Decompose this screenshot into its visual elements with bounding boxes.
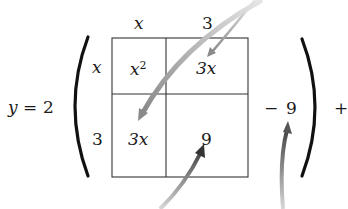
constant-term: 9 xyxy=(286,100,297,117)
row-header-3: 3 xyxy=(92,131,103,148)
arrow-to-constant xyxy=(282,121,292,209)
right-parenthesis xyxy=(302,39,315,176)
cell-bottom-right-9: 9 xyxy=(201,131,212,148)
area-model-diagram: y = 2 xyxy=(0,0,348,209)
trailing-plus: + xyxy=(334,100,348,117)
minus-sign: − xyxy=(264,100,278,117)
column-header-3: 3 xyxy=(202,15,213,32)
left-parenthesis xyxy=(75,37,88,176)
cell-top-right-3x: 3x xyxy=(196,60,216,77)
cell-x-squared-exponent: 2 xyxy=(140,59,147,72)
row-header-x: x xyxy=(92,59,102,76)
column-header-x: x xyxy=(134,15,144,32)
cell-x-squared: x2 xyxy=(130,60,147,78)
cell-bottom-left-3x: 3x xyxy=(128,131,148,148)
cell-x-squared-base: x xyxy=(130,59,140,79)
